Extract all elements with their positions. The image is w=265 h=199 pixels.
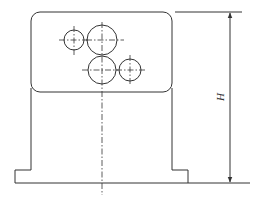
hole-large-upper: [86, 25, 124, 55]
dimension-label-h: H: [214, 92, 226, 102]
hole-large-lower: [82, 56, 118, 84]
top-plate: [31, 12, 172, 92]
technical-drawing: H: [0, 0, 265, 199]
hole-small-upper-left: [59, 26, 88, 56]
hole-small-lower-right: [116, 55, 145, 86]
body-outline: [15, 88, 188, 183]
